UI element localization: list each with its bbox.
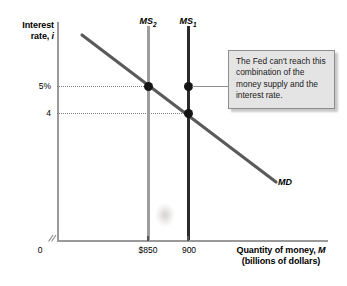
x-tick-850: [147, 236, 149, 241]
data-point-ms2-5pct: [144, 82, 153, 91]
label-ms2: MS2: [130, 16, 166, 28]
x-tick-900: [187, 236, 189, 241]
money-demand-curve: [0, 0, 347, 286]
callout-box: The Fed can't reach this combination of …: [228, 50, 335, 109]
x-axis-title-main: Quantity of money, M: [237, 245, 326, 255]
y-axis-title-line1: Interest: [22, 20, 54, 30]
money-supply-line-ms1: [187, 26, 190, 240]
guideline-4: [57, 113, 188, 114]
label-md: MD: [278, 177, 292, 187]
callout-connector-line: [192, 86, 232, 87]
origin-label: 0: [34, 245, 46, 255]
guideline-5pct: [57, 86, 148, 87]
x-axis: [57, 240, 328, 242]
money-market-chart: Interest rate, i 5% 4 MS2 MS1 MD The Fed…: [0, 0, 347, 286]
y-tick-label-4: 4: [22, 108, 51, 118]
x-axis-title: Quantity of money, M (billions of dollar…: [218, 245, 344, 266]
y-tick-label-5pct: 5%: [22, 81, 51, 91]
x-axis-title-sub: (billions of dollars): [242, 256, 320, 266]
x-tick-label-900: 900: [168, 245, 210, 255]
y-axis-title: Interest rate, i: [8, 20, 54, 41]
y-axis-title-line2: rate, i: [31, 31, 54, 41]
money-supply-line-ms2: [147, 26, 150, 240]
callout-text: The Fed can't reach this combination of …: [236, 56, 328, 102]
scan-smudge: [155, 203, 175, 227]
axis-break-icon: [46, 231, 58, 243]
y-axis: [57, 22, 59, 241]
label-ms1: MS1: [170, 16, 206, 28]
data-point-ms1-4: [184, 109, 193, 118]
x-tick-label-850: $850: [126, 245, 170, 255]
